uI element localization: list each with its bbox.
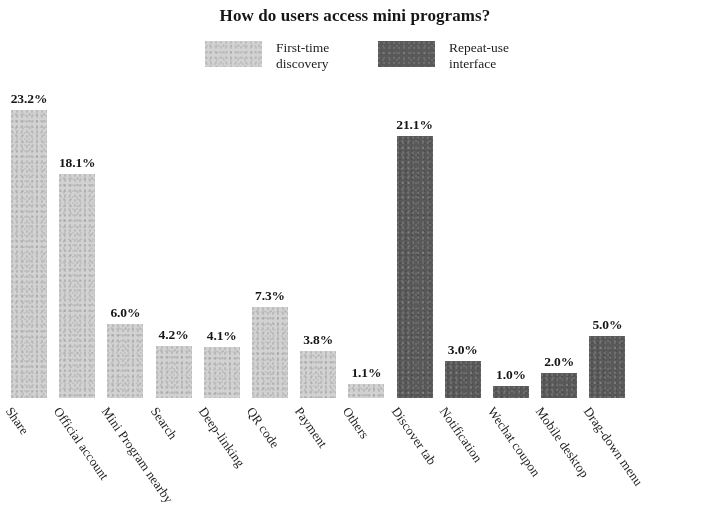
x-axis-label-payment: Payment	[291, 404, 331, 451]
bar-value-label: 23.2%	[11, 91, 48, 107]
bar-value-label: 2.0%	[544, 354, 574, 370]
bar-rect[interactable]	[348, 384, 384, 398]
bar-notification[interactable]: 3.0%	[445, 342, 481, 398]
bar-rect[interactable]	[589, 336, 625, 398]
x-axis-label-deep-linking: Deep-linking	[195, 404, 248, 470]
bar-value-label: 6.0%	[110, 305, 140, 321]
bar-value-label: 5.0%	[592, 317, 622, 333]
bar-chart-plot-area: 23.2%Share18.1%Official account6.0%Mini …	[0, 0, 710, 508]
bar-payment[interactable]: 3.8%	[300, 332, 336, 398]
bar-value-label: 1.0%	[496, 367, 526, 383]
bar-qr-code[interactable]: 7.3%	[252, 288, 288, 398]
bar-others[interactable]: 1.1%	[348, 365, 384, 398]
x-axis-label-search: Search	[146, 404, 180, 443]
x-axis-label-others: Others	[339, 404, 372, 442]
x-axis-label-notification: Notification	[436, 404, 486, 466]
bar-value-label: 4.2%	[159, 327, 189, 343]
bar-deep-linking[interactable]: 4.1%	[204, 328, 240, 398]
bar-drag-down-menu[interactable]: 5.0%	[589, 317, 625, 398]
bar-rect[interactable]	[59, 174, 95, 398]
bar-rect[interactable]	[541, 373, 577, 398]
bar-search[interactable]: 4.2%	[156, 327, 192, 398]
x-axis-label-drag-down-menu: Drag-down menu	[580, 404, 646, 489]
bar-official-account[interactable]: 18.1%	[59, 155, 95, 398]
bar-value-label: 3.8%	[303, 332, 333, 348]
bar-mobile-desktop[interactable]: 2.0%	[541, 354, 577, 398]
x-axis-label-share: Share	[2, 404, 32, 438]
bar-rect[interactable]	[445, 361, 481, 398]
bar-mini-program-nearby[interactable]: 6.0%	[107, 305, 143, 398]
bar-rect[interactable]	[252, 307, 288, 398]
bar-wechat-coupon[interactable]: 1.0%	[493, 367, 529, 398]
bar-value-label: 4.1%	[207, 328, 237, 344]
bar-rect[interactable]	[11, 110, 47, 398]
x-axis-label-discover-tab: Discover tab	[387, 404, 439, 468]
bar-value-label: 18.1%	[59, 155, 96, 171]
bar-value-label: 3.0%	[448, 342, 478, 358]
bar-value-label: 7.3%	[255, 288, 285, 304]
x-axis-label-qr-code: QR code	[243, 404, 283, 451]
bar-discover-tab[interactable]: 21.1%	[397, 117, 433, 398]
bar-value-label: 1.1%	[351, 365, 381, 381]
bar-share[interactable]: 23.2%	[11, 91, 47, 398]
bar-value-label: 21.1%	[396, 117, 433, 133]
bar-rect[interactable]	[397, 136, 433, 398]
bar-rect[interactable]	[300, 351, 336, 398]
bar-rect[interactable]	[156, 346, 192, 398]
bar-rect[interactable]	[107, 324, 143, 398]
bar-rect[interactable]	[493, 386, 529, 398]
bar-rect[interactable]	[204, 347, 240, 398]
